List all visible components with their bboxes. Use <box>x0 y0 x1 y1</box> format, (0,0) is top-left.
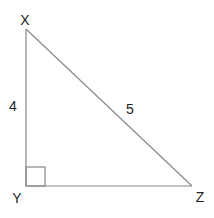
right-angle-marker <box>26 167 45 186</box>
side-length-xz: 5 <box>126 101 134 117</box>
side-xz <box>26 29 192 186</box>
side-length-xy: 4 <box>9 98 17 114</box>
vertex-label-y: Y <box>12 190 22 206</box>
vertex-label-z: Z <box>196 189 205 205</box>
vertex-label-x: X <box>20 12 30 28</box>
right-triangle-diagram: X Y Z 4 5 <box>0 0 214 218</box>
